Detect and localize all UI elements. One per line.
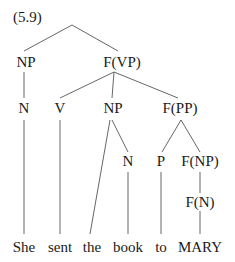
node-n1: N — [19, 100, 30, 116]
edge-fvp-np2 — [112, 72, 114, 98]
edge-fvp-fpp — [114, 72, 178, 98]
word-w-the: the — [83, 239, 102, 255]
node-fpp: F(PP) — [162, 100, 197, 117]
word-w-sent: sent — [48, 239, 73, 255]
node-n2: N — [123, 153, 134, 169]
word-w-she: She — [13, 239, 36, 255]
edge-np2-the — [90, 120, 110, 234]
edge-np2-n2 — [112, 120, 128, 152]
node-p: P — [157, 153, 165, 169]
node-fvp: F(VP) — [103, 54, 141, 71]
word-w-to: to — [155, 239, 167, 255]
edge-root-np1 — [24, 25, 72, 51]
terminal-words: ShesentthebooktoMARY — [13, 239, 223, 255]
edge-fpp-fnp — [181, 120, 200, 152]
syntax-tree-diagram: (5.9) NPF(VP)NVNPF(PP)NPF(NP)F(N) Shesen… — [0, 0, 235, 262]
example-number: (5.9) — [13, 9, 42, 26]
node-np2: NP — [103, 100, 122, 116]
node-fn: F(N) — [185, 194, 214, 211]
edge-fvp-v — [60, 72, 114, 98]
node-fnp: F(NP) — [181, 153, 219, 170]
node-v: V — [55, 100, 66, 116]
edge-root-fvp — [72, 25, 118, 51]
node-np1: NP — [16, 54, 35, 70]
edge-fpp-p — [162, 120, 181, 152]
word-w-mary: MARY — [178, 239, 222, 255]
word-w-book: book — [113, 239, 144, 255]
